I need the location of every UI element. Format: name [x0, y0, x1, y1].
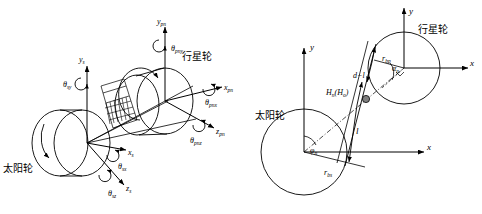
left-planet-theta-z-label: θpnz — [190, 136, 202, 146]
left-panel: 太阳轮 行星轮 ys xs zs θsy θsx θsz ypn xpn — [3, 17, 233, 199]
mesh-contact-patch — [101, 79, 137, 128]
sun-z-sub: s — [129, 188, 131, 194]
right-planet-axis-x-label: x — [469, 58, 474, 68]
left-planet-axis-y-label: ypn — [156, 17, 166, 27]
ho-close: ) — [345, 88, 349, 97]
alpha-sub: n — [396, 68, 399, 74]
pressure-angle-label: αn — [392, 64, 399, 74]
left-sun-axis-y-label: ys — [78, 55, 85, 65]
position-angle-label: φn — [310, 146, 317, 156]
carrier-link-line-2 — [87, 119, 196, 143]
planet-coordinate-frame — [165, 27, 222, 128]
line-of-action — [345, 44, 376, 166]
planet-z-sub: pn — [218, 131, 225, 137]
left-sun-axis-z-label: zs — [125, 184, 131, 194]
left-planet-theta-y-label: θpny — [171, 44, 183, 54]
planet-theta-z-sub: pnz — [193, 140, 203, 146]
planet-y-sub: pn — [160, 21, 167, 27]
right-sun-axis-x-label: x — [426, 142, 431, 152]
planet-x-sub: pn — [227, 87, 234, 93]
remaining-length-label: d−l — [353, 71, 365, 80]
sun-x-sub: s — [132, 152, 134, 158]
planet-rotation-curl-z — [193, 120, 205, 132]
right-sun-axis-y-label: y — [309, 42, 314, 52]
mesh-patch-rule — [103, 86, 126, 93]
sun-y-sub: s — [83, 59, 85, 65]
sun-rotation-curl-z — [99, 170, 111, 182]
sun-gear-body — [32, 110, 110, 176]
left-planet-gear-label: 行星轮 — [182, 50, 212, 62]
left-sun-axis-x-label: xs — [127, 148, 134, 158]
sun-theta-x-sub: sx — [122, 166, 127, 172]
figure-root: 太阳轮 行星轮 ys xs zs θsy θsx θsz ypn xpn — [0, 0, 482, 214]
sun-gear-spin-arrow — [41, 124, 49, 158]
right-planet-axes — [404, 8, 468, 68]
left-planet-axis-x-label: xpn — [223, 83, 233, 93]
phi-sub: n — [314, 150, 317, 156]
planet-gear-top-edge — [136, 68, 164, 76]
planet-theta-y-sub: pny — [174, 48, 184, 54]
rbs-sub: bs — [327, 172, 332, 178]
planet-base-radius-label: rbp — [382, 54, 391, 64]
left-planet-axis-z-label: zpn — [215, 127, 225, 137]
contact-point-marker — [362, 95, 369, 102]
sun-base-radius-label: rbs — [324, 168, 332, 178]
left-planet-theta-x-label: θpnx — [205, 98, 217, 108]
rbp-sub: bp — [385, 58, 391, 64]
dimension-l — [349, 82, 362, 162]
right-sun-gear-label: 太阳轮 — [255, 109, 285, 121]
planet-theta-x-sub: pnx — [208, 102, 218, 108]
mesh-patch-rule — [106, 96, 129, 103]
right-panel: 太阳轮 行星轮 y x y x rbs rbp l d−l αn φn Hn(H… — [255, 6, 474, 195]
sun-gear-back-face — [54, 110, 110, 176]
planet-rotation-curl-y — [153, 40, 165, 52]
left-sun-gear-label: 太阳轮 — [3, 162, 33, 174]
right-planet-axis-y-label: y — [408, 6, 413, 16]
centre-distance-line — [304, 68, 404, 152]
sun-theta-z-sub: sz — [112, 193, 117, 199]
left-sun-theta-z-label: θsz — [108, 189, 117, 199]
diagram-canvas: 太阳轮 行星轮 ys xs zs θsy θsx θsz ypn xpn — [0, 0, 482, 214]
sun-theta-y-sub: sy — [67, 84, 72, 90]
left-sun-theta-y-label: θsy — [63, 80, 72, 90]
line-of-action-length-label: l — [356, 126, 359, 136]
sun-rotation-curl-y — [75, 78, 87, 90]
contact-point-label: Hn(Ho) — [325, 88, 349, 98]
right-planet-gear-label: 行星轮 — [418, 23, 448, 35]
left-sun-theta-x-label: θsx — [118, 162, 127, 172]
sun-gear-front-face — [32, 110, 88, 176]
